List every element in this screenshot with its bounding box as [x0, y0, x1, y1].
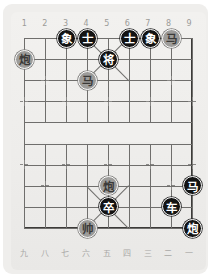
piece-label: 将	[103, 51, 114, 67]
file-label-top-9: 9	[179, 17, 200, 30]
cannon-black-file9[interactable]: 炮	[183, 219, 202, 238]
piece-label: 马	[166, 30, 177, 46]
advisor-black-file4[interactable]: 士	[78, 29, 97, 48]
xiangqi-screenshot: 123456789 象士士象马炮将马炮马卒车帅炮 九八七六五四三二一	[0, 0, 211, 278]
grid-file-6-seg0	[129, 38, 130, 122]
piece-label: 车	[166, 198, 177, 214]
river-gap	[25, 123, 191, 142]
horse-grey-file4[interactable]: 马	[78, 71, 97, 90]
piece-label: 帅	[82, 220, 93, 236]
file-label-bottom-3: 七	[55, 247, 76, 260]
board-grid[interactable]: 象士士象马炮将马炮马卒车帅炮	[24, 38, 192, 228]
horse-black-file9[interactable]: 马	[183, 176, 202, 195]
grid-file-9	[192, 38, 193, 228]
file-label-top-8: 8	[158, 17, 179, 30]
piece-label: 炮	[187, 220, 198, 236]
piece-label: 士	[82, 30, 93, 46]
grid-file-2-seg1	[45, 144, 46, 228]
cannon-grey-file1[interactable]: 炮	[15, 50, 34, 69]
elephant-black-file3[interactable]: 象	[57, 29, 76, 48]
chariot-black-file8[interactable]: 车	[162, 197, 181, 216]
file-label-bottom-8: 二	[158, 247, 179, 260]
piece-label: 士	[124, 30, 135, 46]
grid-file-3-seg0	[66, 38, 67, 122]
file-label-bottom-2: 八	[35, 247, 56, 260]
file-label-bottom-5: 五	[96, 247, 117, 260]
grid-file-2-seg0	[45, 38, 46, 122]
marshal-grey-file4[interactable]: 帅	[78, 219, 97, 238]
general-black-file5[interactable]: 将	[99, 50, 118, 69]
grid-file-7-seg0	[150, 38, 151, 122]
piece-label: 炮	[19, 51, 30, 67]
file-label-top-7: 7	[138, 17, 159, 30]
elephant-black-file7[interactable]: 象	[141, 29, 160, 48]
file-labels-top: 123456789	[3, 17, 211, 30]
file-label-bottom-7: 三	[138, 247, 159, 260]
advisor-black-file6[interactable]: 士	[120, 29, 139, 48]
file-label-top-6: 6	[117, 17, 138, 30]
file-label-bottom-9: 一	[179, 247, 200, 260]
piece-label: 马	[82, 72, 93, 88]
piece-label: 炮	[103, 177, 114, 193]
piece-label: 卒	[103, 198, 114, 214]
board-card: 123456789 象士士象马炮将马炮马卒车帅炮 九八七六五四三二一	[3, 4, 208, 274]
file-label-top-1: 1	[14, 17, 35, 30]
file-label-top-5: 5	[96, 17, 117, 30]
grid-file-3-seg1	[66, 144, 67, 228]
grid-file-8-seg0	[171, 38, 172, 122]
cannon-grey-file5[interactable]: 炮	[99, 176, 118, 195]
horse-grey-file8[interactable]: 马	[162, 29, 181, 48]
pawn-black-file5[interactable]: 卒	[99, 197, 118, 216]
grid-file-7-seg1	[150, 144, 151, 228]
file-label-bottom-1: 九	[14, 247, 35, 260]
file-label-top-2: 2	[35, 17, 56, 30]
piece-label: 象	[145, 30, 156, 46]
file-label-bottom-4: 六	[76, 247, 97, 260]
file-labels-bottom: 九八七六五四三二一	[3, 247, 211, 260]
piece-label: 马	[187, 177, 198, 193]
piece-label: 象	[61, 30, 72, 46]
file-label-bottom-6: 四	[117, 247, 138, 260]
grid-rank-9	[24, 228, 192, 229]
